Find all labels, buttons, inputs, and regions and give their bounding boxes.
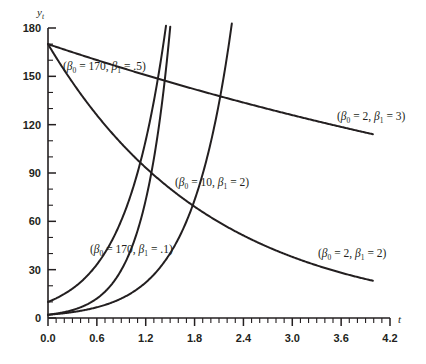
y-tick-label: 90 [29,167,41,179]
x-tick-label: 1.2 [138,332,153,344]
y-tick-label: 0 [35,312,41,324]
x-tick-label: 2.4 [236,332,252,344]
y-tick-label: 30 [29,264,41,276]
y-tick-label: 120 [23,119,41,131]
x-tick-label: 3.0 [285,332,300,344]
exponential-curves-chart: 0306090120150180 0.00.61.21.82.43.03.64.… [0,0,426,364]
x-tick-label: 4.2 [382,332,397,344]
x-tick-label: 0.0 [40,332,55,344]
x-axis-minor-ticks [56,318,382,323]
y-tick-label: 180 [23,22,41,34]
y-tick-label: 60 [29,215,41,227]
x-tick-label: 0.6 [89,332,104,344]
x-tick-label: 3.6 [333,332,348,344]
x-tick-label: 1.8 [187,332,202,344]
y-tick-label: 150 [23,70,41,82]
